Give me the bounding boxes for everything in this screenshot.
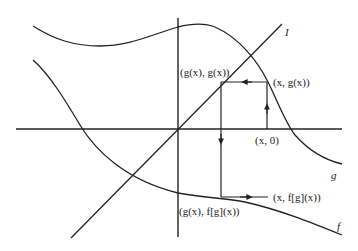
label-I: I xyxy=(284,26,290,38)
label-g: g xyxy=(331,169,337,181)
label-gx-fgx: (g(x), f[g](x)) xyxy=(179,205,240,218)
label-x-0: (x, 0) xyxy=(255,134,279,147)
function-composition-diagram: I g f (g(x), g(x)) (x, g(x)) (x, 0) (x, … xyxy=(0,0,358,251)
label-x-fgx: (x, f[g](x)) xyxy=(273,191,321,204)
identity-line xyxy=(71,24,282,238)
label-f: f xyxy=(337,220,342,232)
g-curve xyxy=(33,24,342,164)
label-x-gx: (x, g(x)) xyxy=(273,76,310,89)
label-gx-gx: (g(x), g(x)) xyxy=(180,66,230,79)
